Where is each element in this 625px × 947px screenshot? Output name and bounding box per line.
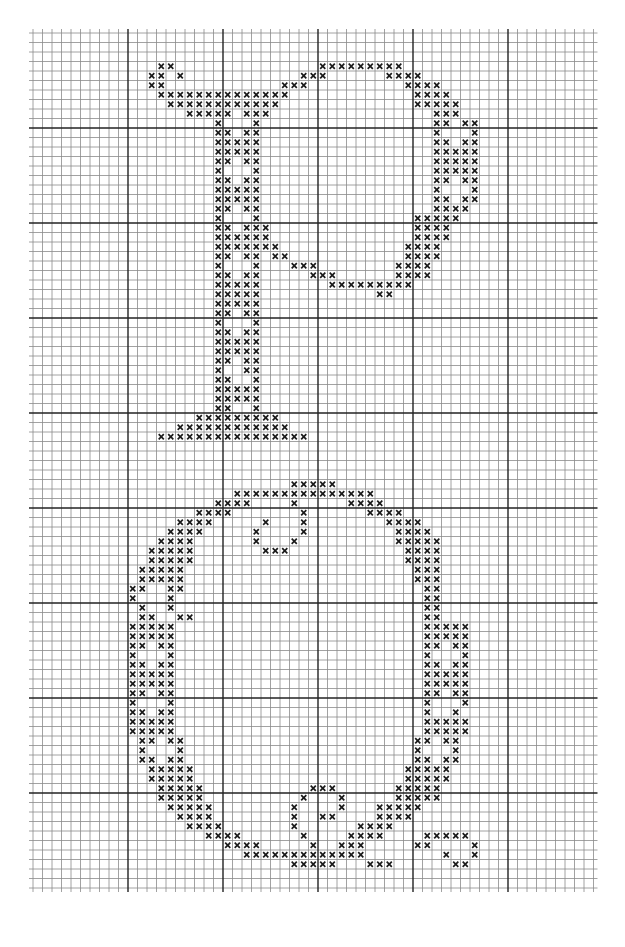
grid-minor-lines [29,29,598,892]
cross-stitch-chart [0,0,625,947]
letter-q-stitches [130,482,477,867]
